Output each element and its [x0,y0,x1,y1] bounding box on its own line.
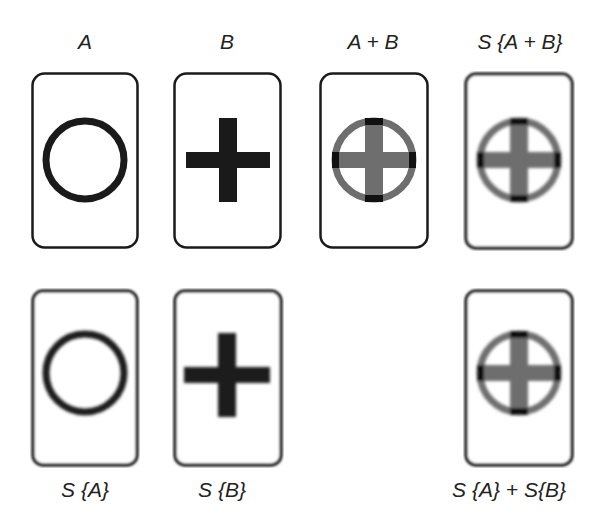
label-a-plus-b: A + B [347,30,398,54]
label-s-a-plus-b: S {A + B} [477,30,562,54]
panel-a [30,71,140,251]
panel-s-a-plus-s-b [463,288,575,468]
label-s-b: S {B} [198,478,246,502]
label-s-a: S {A} [61,478,109,502]
sum-of-blurred-shape [477,331,561,415]
sum-shape-blurred [477,118,561,202]
panel-b [172,71,284,251]
panel-s-b [172,288,284,468]
panel-a-plus-b [318,71,430,251]
label-b: B [220,30,234,54]
panel-s-a-plus-b [463,71,575,251]
label-s-a-plus-s-b: S {A} + S{B} [452,478,566,502]
sum-shape [332,118,416,202]
label-a: A [78,30,92,54]
panel-s-a [30,288,140,468]
